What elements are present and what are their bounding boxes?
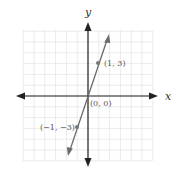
line-lower-arrow-icon bbox=[67, 147, 73, 156]
y-axis-label: y bbox=[84, 6, 92, 19]
point-1-3 bbox=[96, 61, 100, 65]
point-neg1-neg3 bbox=[75, 125, 79, 129]
x-axis-right-arrow-icon bbox=[149, 93, 158, 100]
x-axis-label: x bbox=[165, 90, 172, 103]
y-axis-down-arrow-icon bbox=[85, 158, 92, 167]
coordinate-plane: y x (1, 3) (0, 0) (−1, −3) bbox=[0, 0, 181, 176]
point-label-lower: (−1, −3) bbox=[40, 123, 75, 132]
y-axis-up-arrow-icon bbox=[85, 22, 92, 31]
point-label-origin: (0, 0) bbox=[90, 99, 112, 108]
x-axis-left-arrow-icon bbox=[16, 93, 25, 100]
point-label-upper: (1, 3) bbox=[104, 59, 126, 68]
